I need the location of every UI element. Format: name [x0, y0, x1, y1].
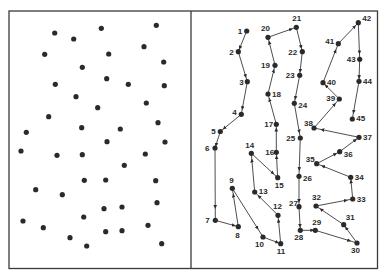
- point-dot: [119, 204, 124, 209]
- point-number-label: 12: [273, 202, 282, 211]
- path-segment: [277, 157, 278, 178]
- numbered-point-dot: [236, 49, 241, 54]
- numbered-point-dot: [213, 218, 218, 223]
- numbered-point-dot: [275, 213, 280, 218]
- point-dot: [159, 241, 164, 246]
- point-number-label: 36: [344, 150, 353, 159]
- point-dot: [53, 82, 58, 87]
- point-dot: [79, 125, 84, 130]
- point-number-label: 29: [312, 218, 321, 227]
- point-dot: [119, 228, 124, 233]
- path-segment: [268, 29, 291, 37]
- point-number-label: 44: [363, 77, 372, 86]
- point-dot: [41, 225, 46, 230]
- point-number-label: 25: [286, 134, 295, 143]
- numbered-point-dot: [245, 79, 250, 84]
- point-dot: [52, 30, 57, 35]
- point-dot: [104, 139, 109, 144]
- path-segment: [300, 52, 302, 71]
- numbered-point-dot: [230, 186, 235, 191]
- point-dot: [118, 126, 123, 131]
- path-segment: [315, 230, 349, 240]
- point-number-label: 33: [357, 195, 366, 204]
- point-dot: [155, 120, 160, 125]
- numbered-point-dot: [265, 91, 270, 96]
- numbered-point-dot: [336, 41, 341, 46]
- path-segment: [338, 26, 354, 43]
- path-segment: [295, 75, 299, 98]
- numbered-point-dot: [313, 203, 318, 208]
- numbered-point-dot: [239, 112, 244, 117]
- point-dot: [20, 218, 25, 223]
- point-number-label: 37: [363, 133, 372, 142]
- point-number-label: 41: [325, 37, 334, 46]
- point-number-label: 2: [229, 48, 234, 57]
- point-dot: [122, 163, 127, 168]
- point-number-label: 23: [286, 71, 295, 80]
- point-dot: [82, 178, 87, 183]
- point-number-label: 4: [232, 108, 237, 117]
- point-number-label: 11: [277, 247, 286, 256]
- numbered-point-dot: [260, 234, 265, 239]
- path-segment: [358, 23, 359, 53]
- point-dot: [106, 51, 111, 56]
- path-segment: [269, 42, 275, 65]
- point-dot: [144, 100, 149, 105]
- point-number-label: 32: [312, 193, 321, 202]
- path-segment: [233, 195, 238, 226]
- numbered-point-dot: [296, 174, 301, 179]
- numbered-point-dot: [249, 151, 254, 156]
- path-segment: [238, 52, 245, 77]
- point-number-label: 7: [205, 216, 210, 225]
- path-segment: [296, 27, 301, 47]
- point-number-label: 45: [356, 114, 365, 123]
- path-segment: [322, 130, 359, 138]
- point-number-label: 19: [261, 61, 270, 70]
- numbered-point-dot: [275, 175, 280, 180]
- point-dot: [103, 177, 108, 182]
- numbered-point-dot: [337, 96, 342, 101]
- point-number-label: 8: [235, 231, 240, 240]
- point-number-label: 39: [326, 94, 335, 103]
- point-dot: [54, 153, 59, 158]
- point-dot: [143, 151, 148, 156]
- point-number-label: 34: [355, 173, 364, 182]
- point-number-label: 38: [304, 119, 313, 128]
- tour-diagram: 1234567891011121314151617181920212223242…: [0, 0, 384, 279]
- point-dot: [145, 223, 150, 228]
- point-number-label: 27: [289, 199, 298, 208]
- numbered-point-dot: [236, 224, 241, 229]
- numbered-point-dot: [341, 222, 346, 227]
- point-dot: [81, 214, 86, 219]
- numbered-point-dot: [356, 79, 361, 84]
- point-number-label: 9: [229, 176, 234, 185]
- numbered-point-dot: [350, 196, 355, 201]
- point-dot: [18, 148, 23, 153]
- path-segment: [359, 59, 360, 77]
- point-number-label: 21: [292, 14, 301, 23]
- path-segment: [351, 181, 353, 199]
- point-number-label: 15: [275, 181, 284, 190]
- numbered-point-dot: [274, 150, 279, 155]
- outer-frame: [9, 11, 378, 269]
- point-number-label: 28: [294, 233, 303, 242]
- point-number-label: 14: [245, 141, 254, 150]
- point-dot: [162, 139, 167, 144]
- point-dot: [153, 178, 158, 183]
- point-number-label: 31: [346, 213, 355, 222]
- numbered-point-dot: [252, 189, 257, 194]
- point-number-label: 26: [303, 174, 312, 183]
- point-dot: [24, 130, 29, 135]
- numbered-point-dot: [357, 57, 362, 62]
- point-dot: [60, 192, 65, 197]
- point-dot: [33, 187, 38, 192]
- numbered-point-dot: [348, 175, 353, 180]
- point-number-label: 24: [298, 101, 307, 110]
- point-dot: [126, 82, 131, 87]
- point-dot: [46, 114, 51, 119]
- point-number-label: 17: [264, 120, 273, 129]
- numbered-point-dot: [320, 80, 325, 85]
- point-number-label: 1: [238, 27, 243, 36]
- point-dot: [103, 229, 108, 234]
- point-dot: [162, 83, 167, 88]
